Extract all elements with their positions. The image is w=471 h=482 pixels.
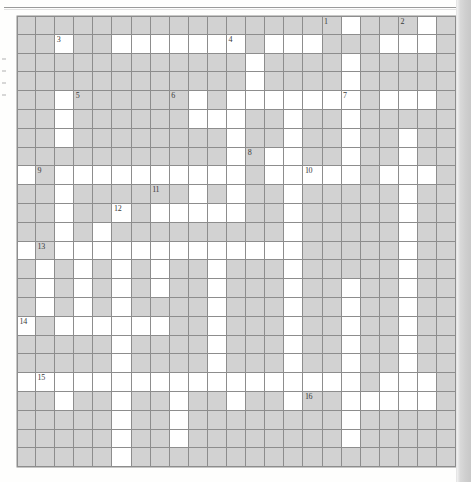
grid-cell-open[interactable] bbox=[74, 298, 93, 317]
grid-cell-open[interactable] bbox=[399, 91, 418, 110]
grid-cell-open[interactable] bbox=[265, 242, 284, 261]
grid-cell-open[interactable] bbox=[74, 317, 93, 336]
grid-cell-open[interactable] bbox=[399, 392, 418, 411]
grid-cell-open[interactable] bbox=[55, 129, 74, 148]
grid-cell-open[interactable] bbox=[55, 110, 74, 129]
grid-cell-open[interactable] bbox=[112, 242, 131, 261]
grid-cell-open[interactable] bbox=[265, 166, 284, 185]
grid-cell-open[interactable] bbox=[284, 392, 303, 411]
grid-cell-open[interactable] bbox=[189, 35, 208, 54]
grid-cell-open[interactable] bbox=[170, 411, 189, 430]
grid-cell-open[interactable] bbox=[74, 166, 93, 185]
grid-cell-open[interactable] bbox=[342, 298, 361, 317]
grid-cell-open[interactable] bbox=[208, 166, 227, 185]
grid-cell-open[interactable] bbox=[227, 392, 246, 411]
grid-cell-open[interactable] bbox=[93, 373, 112, 392]
grid-cell-open[interactable] bbox=[342, 72, 361, 91]
grid-cell-open[interactable] bbox=[208, 298, 227, 317]
grid-cell-open[interactable] bbox=[208, 373, 227, 392]
grid-cell-open[interactable] bbox=[55, 317, 74, 336]
grid-cell-open[interactable] bbox=[112, 279, 131, 298]
grid-cell-open[interactable] bbox=[170, 392, 189, 411]
grid-cell-open[interactable] bbox=[361, 392, 380, 411]
grid-cell-open[interactable] bbox=[265, 35, 284, 54]
grid-cell-open[interactable] bbox=[151, 204, 170, 223]
grid-cell-open[interactable] bbox=[55, 392, 74, 411]
grid-cell-open[interactable] bbox=[380, 373, 399, 392]
grid-cell-open[interactable] bbox=[284, 373, 303, 392]
grid-cell-open[interactable] bbox=[418, 166, 437, 185]
grid-cell-open[interactable] bbox=[17, 166, 36, 185]
grid-cell-open[interactable] bbox=[399, 129, 418, 148]
grid-cell-open[interactable] bbox=[418, 373, 437, 392]
grid-cell-open[interactable] bbox=[342, 148, 361, 167]
grid-cell-open[interactable] bbox=[246, 72, 265, 91]
grid-cell-open[interactable] bbox=[323, 166, 342, 185]
grid-cell-open[interactable] bbox=[74, 279, 93, 298]
grid-cell-open[interactable] bbox=[55, 185, 74, 204]
grid-cell-open[interactable] bbox=[399, 298, 418, 317]
grid-cell-open[interactable] bbox=[399, 204, 418, 223]
grid-cell-open[interactable] bbox=[342, 430, 361, 449]
grid-cell-open[interactable]: 12 bbox=[112, 204, 131, 223]
grid-cell-open[interactable] bbox=[342, 392, 361, 411]
grid-cell-open[interactable] bbox=[112, 35, 131, 54]
grid-cell-open[interactable] bbox=[112, 336, 131, 355]
grid-cell-open[interactable] bbox=[132, 166, 151, 185]
grid-cell-open[interactable] bbox=[93, 166, 112, 185]
grid-cell-open[interactable] bbox=[227, 185, 246, 204]
grid-cell-open[interactable] bbox=[55, 204, 74, 223]
grid-cell-open[interactable] bbox=[284, 129, 303, 148]
grid-cell-open[interactable] bbox=[93, 223, 112, 242]
grid-cell-open[interactable] bbox=[303, 35, 322, 54]
grid-cell-open[interactable] bbox=[227, 204, 246, 223]
grid-cell-open[interactable] bbox=[323, 91, 342, 110]
grid-cell-open[interactable] bbox=[132, 373, 151, 392]
grid-cell-open[interactable] bbox=[342, 317, 361, 336]
grid-cell-open[interactable]: 3 bbox=[55, 35, 74, 54]
grid-cell-open[interactable] bbox=[380, 166, 399, 185]
grid-cell-open[interactable] bbox=[284, 279, 303, 298]
grid-cell-open[interactable] bbox=[399, 148, 418, 167]
grid-cell-open[interactable] bbox=[380, 35, 399, 54]
grid-cell-open[interactable] bbox=[112, 354, 131, 373]
grid-cell-open[interactable] bbox=[265, 373, 284, 392]
grid-cell-open[interactable] bbox=[246, 54, 265, 73]
grid-cell-open[interactable] bbox=[284, 110, 303, 129]
grid-cell-open[interactable] bbox=[342, 129, 361, 148]
grid-cell-open[interactable] bbox=[227, 91, 246, 110]
grid-cell-open[interactable] bbox=[284, 260, 303, 279]
grid-cell-open[interactable] bbox=[342, 279, 361, 298]
grid-cell-open[interactable] bbox=[55, 223, 74, 242]
grid-cell-open[interactable] bbox=[246, 91, 265, 110]
grid-cell-open[interactable] bbox=[74, 242, 93, 261]
grid-cell-open[interactable] bbox=[418, 91, 437, 110]
grid-cell-open[interactable] bbox=[189, 185, 208, 204]
grid-cell-open[interactable] bbox=[208, 242, 227, 261]
grid-cell-open[interactable] bbox=[132, 35, 151, 54]
grid-cell-open[interactable] bbox=[342, 336, 361, 355]
grid-cell-open[interactable] bbox=[284, 35, 303, 54]
grid-cell-open[interactable] bbox=[284, 317, 303, 336]
grid-cell-open[interactable] bbox=[151, 35, 170, 54]
grid-cell-open[interactable] bbox=[342, 354, 361, 373]
grid-cell-open[interactable]: 4 bbox=[227, 35, 246, 54]
grid-cell-open[interactable] bbox=[170, 430, 189, 449]
grid-cell-open[interactable] bbox=[342, 110, 361, 129]
grid-cell-open[interactable] bbox=[399, 166, 418, 185]
grid-cell-open[interactable] bbox=[112, 411, 131, 430]
grid-cell-open[interactable] bbox=[284, 204, 303, 223]
grid-cell-open[interactable] bbox=[170, 35, 189, 54]
grid-cell-open[interactable] bbox=[342, 411, 361, 430]
grid-cell-open[interactable] bbox=[380, 392, 399, 411]
grid-cell-open[interactable] bbox=[399, 317, 418, 336]
grid-cell-open[interactable] bbox=[208, 35, 227, 54]
grid-cell-open[interactable] bbox=[227, 110, 246, 129]
grid-cell-open[interactable] bbox=[17, 373, 36, 392]
grid-cell-open[interactable] bbox=[170, 204, 189, 223]
grid-cell-open[interactable] bbox=[112, 317, 131, 336]
grid-cell-open[interactable] bbox=[246, 373, 265, 392]
grid-cell-open[interactable] bbox=[112, 260, 131, 279]
grid-cell-open[interactable] bbox=[303, 91, 322, 110]
grid-cell-open[interactable] bbox=[74, 373, 93, 392]
